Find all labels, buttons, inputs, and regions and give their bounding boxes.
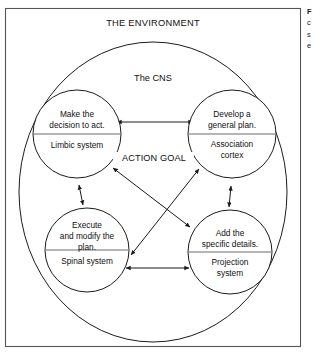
node-spinal-system[interactable]: Execute and modify the plan. Spinal syst… — [45, 208, 129, 292]
margin-caption-fragment: F c s e — [307, 6, 322, 50]
node-association-cortex[interactable]: Develop a general plan. Association cort… — [188, 90, 276, 178]
cns-action-goal-diagram: THE ENVIRONMENT The CNS Make the decisio… — [0, 0, 322, 354]
edge-limbic-spinal — [79, 185, 83, 205]
node-projection-function-line2: specific details. — [202, 239, 258, 249]
cns-boundary-ellipse — [19, 42, 287, 342]
node-limbic-structure: Limbic system — [51, 140, 104, 150]
node-spinal-structure: Spinal system — [61, 256, 113, 266]
node-spinal-function-line1: Execute — [72, 220, 102, 230]
node-association-structure-line2: cortex — [221, 150, 244, 160]
node-limbic-function-line1: Make the — [60, 109, 95, 119]
node-association-function-line2: general plan. — [208, 120, 256, 130]
edge-limbic-projection — [113, 168, 190, 227]
figure-canvas: THE ENVIRONMENT The CNS Make the decisio… — [0, 0, 322, 354]
node-association-function-line1: Develop a — [213, 109, 251, 119]
node-projection-structure-line2: system — [217, 268, 243, 278]
node-association-structure-line1: Association — [211, 139, 254, 149]
node-projection-function-line1: Add the — [216, 228, 245, 238]
action-goal-annotation: ACTION GOAL — [113, 152, 194, 165]
action-goal-label: ACTION GOAL — [122, 153, 186, 163]
environment-title: THE ENVIRONMENT — [106, 18, 200, 28]
cns-title: The CNS — [134, 73, 172, 83]
margin-line-4: e — [307, 40, 322, 50]
margin-line-3: s — [307, 29, 322, 40]
node-spinal-function-line3: plan. — [78, 242, 96, 252]
node-limbic-function-line2: decision to act. — [49, 120, 104, 130]
environment-frame — [6, 9, 301, 347]
node-projection-structure-line1: Projection — [212, 257, 249, 267]
node-spinal-function-line2: and modify the — [60, 231, 115, 241]
edge-association-projection — [229, 186, 231, 207]
margin-line-1: F — [307, 6, 322, 17]
margin-line-2: c — [307, 17, 322, 28]
node-limbic-system[interactable]: Make the decision to act. Limbic system — [33, 90, 121, 178]
node-projection-system[interactable]: Add the specific details. Projection sys… — [188, 210, 272, 294]
